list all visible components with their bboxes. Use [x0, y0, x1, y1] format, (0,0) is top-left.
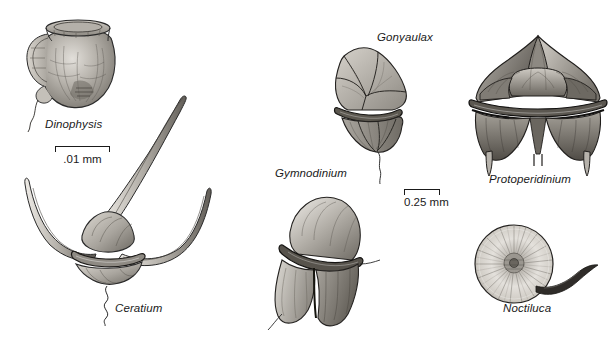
scale-bar-line — [404, 189, 440, 195]
dinoflagellate-figure: Dinophysis .01 mm — [0, 0, 614, 337]
scale-bar-caption: 0.25 mm — [404, 196, 440, 208]
specimen-noctiluca — [466, 222, 606, 308]
label-gonyaulax: Gonyaulax — [377, 31, 433, 43]
specimen-gonyaulax — [322, 42, 437, 162]
label-protoperidinium: Protoperidinium — [489, 173, 571, 185]
specimen-gymnodinium — [258, 188, 383, 333]
scale-bar-center: 0.25 mm — [404, 189, 440, 208]
label-gymnodinium: Gymnodinium — [275, 167, 347, 179]
specimen-protoperidinium — [468, 32, 608, 177]
label-noctiluca: Noctiluca — [503, 302, 551, 314]
label-ceratium: Ceratium — [115, 302, 162, 314]
specimen-ceratium — [8, 60, 243, 325]
